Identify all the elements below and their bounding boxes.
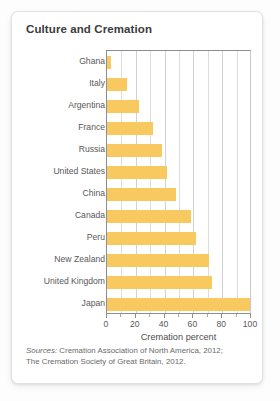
category-label: Argentina bbox=[12, 100, 105, 110]
bar bbox=[107, 188, 176, 201]
plot-area bbox=[106, 50, 251, 314]
gridline bbox=[222, 51, 223, 313]
x-axis-tick bbox=[164, 314, 165, 318]
x-axis-tick-label: 80 bbox=[208, 319, 234, 329]
sources-note: Sources: Cremation Association of North … bbox=[26, 346, 254, 367]
gridline bbox=[150, 51, 151, 313]
x-axis-tick bbox=[120, 314, 121, 317]
x-axis-tick bbox=[236, 314, 237, 317]
bar bbox=[107, 122, 153, 135]
sources-label: Sources: bbox=[26, 346, 57, 355]
bar bbox=[107, 56, 111, 69]
category-label: Russia bbox=[12, 144, 105, 154]
x-axis-tick bbox=[192, 314, 193, 318]
category-label: New Zealand bbox=[12, 254, 105, 264]
category-label: China bbox=[12, 188, 105, 198]
x-axis-tick bbox=[135, 314, 136, 318]
gridline bbox=[179, 51, 180, 313]
category-label: Canada bbox=[12, 210, 105, 220]
gridline bbox=[193, 51, 194, 313]
x-axis-tick-label: 100 bbox=[237, 319, 263, 329]
category-label: France bbox=[12, 122, 105, 132]
bar bbox=[107, 298, 250, 311]
gridline bbox=[237, 51, 238, 313]
category-label: Peru bbox=[12, 232, 105, 242]
x-axis-tick-label: 20 bbox=[122, 319, 148, 329]
gridline bbox=[136, 51, 137, 313]
x-axis-tick bbox=[221, 314, 222, 318]
chart-card: Culture and Cremation GhanaItalyArgentin… bbox=[11, 11, 263, 384]
bar bbox=[107, 232, 196, 245]
bar bbox=[107, 210, 191, 223]
screenshot-root: Culture and Cremation GhanaItalyArgentin… bbox=[0, 0, 280, 401]
bar bbox=[107, 144, 162, 157]
x-axis-title: Cremation percent bbox=[106, 332, 251, 342]
bar-chart: GhanaItalyArgentinaFranceRussiaUnited St… bbox=[12, 50, 264, 340]
category-label: United States bbox=[12, 166, 105, 176]
x-axis-tick-label: 60 bbox=[179, 319, 205, 329]
x-axis-tick bbox=[178, 314, 179, 317]
x-axis-tick-label: 40 bbox=[151, 319, 177, 329]
gridline bbox=[208, 51, 209, 313]
x-axis-tick-label: 0 bbox=[93, 319, 119, 329]
category-axis-labels: GhanaItalyArgentinaFranceRussiaUnited St… bbox=[12, 50, 105, 314]
x-axis-tick bbox=[207, 314, 208, 317]
bar bbox=[107, 254, 209, 267]
bar bbox=[107, 100, 139, 113]
gridline bbox=[165, 51, 166, 313]
category-label: Ghana bbox=[12, 56, 105, 66]
bar bbox=[107, 276, 212, 289]
x-axis-tick bbox=[106, 314, 107, 318]
x-axis-tick bbox=[149, 314, 150, 317]
bar bbox=[107, 166, 167, 179]
sources-line-2: The Cremation Society of Great Britain, … bbox=[26, 357, 186, 366]
category-label: United Kingdom bbox=[12, 276, 105, 286]
category-label: Italy bbox=[12, 78, 105, 88]
sources-line-1: Cremation Association of North America, … bbox=[57, 346, 223, 355]
bar bbox=[107, 78, 127, 91]
x-axis-tick bbox=[250, 314, 251, 318]
category-label: Japan bbox=[12, 298, 105, 308]
page-title: Culture and Cremation bbox=[26, 23, 152, 35]
